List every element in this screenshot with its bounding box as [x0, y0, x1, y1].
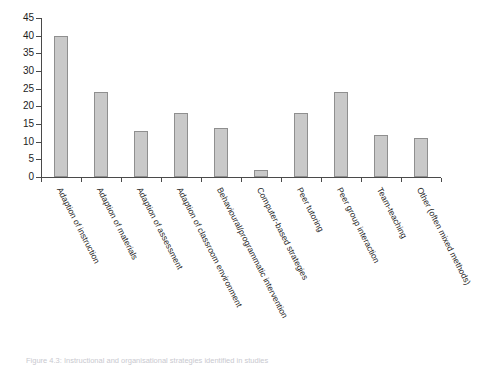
x-tick	[441, 178, 442, 182]
y-tick-label: 30	[0, 66, 34, 76]
y-tick-label: 20	[0, 101, 34, 111]
y-tick-label-wrap: 20	[0, 101, 34, 111]
y-tick	[36, 124, 41, 125]
y-tick	[36, 89, 41, 90]
x-axis-label: Other (often mixed methods)	[415, 186, 472, 286]
y-axis-line	[41, 18, 42, 178]
x-tick	[161, 178, 162, 182]
y-tick-label: 10	[0, 137, 34, 147]
y-tick-label-wrap: 15	[0, 119, 34, 129]
bar	[94, 92, 108, 177]
bar	[214, 128, 228, 177]
x-axis-label: Peer tutoring	[295, 186, 325, 233]
x-tick	[241, 178, 242, 182]
y-tick-label: 25	[0, 84, 34, 94]
y-tick-label: 15	[0, 119, 34, 129]
y-tick-label-wrap: 45	[0, 13, 34, 23]
y-tick-label-wrap: 10	[0, 137, 34, 147]
x-tick	[121, 178, 122, 182]
x-tick	[361, 178, 362, 182]
x-tick	[401, 178, 402, 182]
y-tick-label: 40	[0, 31, 34, 41]
x-axis-label: Adaption of assessment	[135, 186, 184, 271]
bar	[414, 138, 428, 177]
y-tick-label-wrap: 30	[0, 66, 34, 76]
y-tick	[36, 142, 41, 143]
y-tick-label: 45	[0, 13, 34, 23]
y-tick-label-wrap: 25	[0, 84, 34, 94]
x-tick	[41, 178, 42, 182]
y-tick-label: 5	[0, 154, 34, 164]
y-tick	[36, 159, 41, 160]
y-tick-label-wrap: 5	[0, 154, 34, 164]
bar	[294, 113, 308, 177]
bar	[134, 131, 148, 177]
bar	[334, 92, 348, 177]
x-axis-label: Adaption of materials	[95, 186, 139, 261]
y-tick	[36, 53, 41, 54]
y-tick	[36, 18, 41, 19]
bar	[54, 36, 68, 177]
y-tick	[36, 36, 41, 37]
figure-bar-chart: 051015202530354045 Adaption of instructi…	[0, 0, 479, 371]
x-axis-label: Behavioural/programmatic intervention	[215, 186, 289, 320]
x-tick	[321, 178, 322, 182]
bar	[174, 113, 188, 177]
y-tick-label: 35	[0, 48, 34, 58]
y-tick	[36, 106, 41, 107]
bar	[254, 170, 268, 177]
y-tick	[36, 71, 41, 72]
bar	[374, 135, 388, 177]
x-axis-label: Peer group interaction	[335, 186, 381, 265]
y-tick-label-wrap: 0	[0, 172, 34, 182]
x-axis-label: Adaption of instruction	[55, 186, 101, 265]
plot-area: 051015202530354045 Adaption of instructi…	[0, 0, 479, 371]
y-tick-label-wrap: 35	[0, 48, 34, 58]
x-tick	[281, 178, 282, 182]
x-tick	[201, 178, 202, 182]
y-tick-label: 0	[0, 172, 34, 182]
x-tick	[81, 178, 82, 182]
figure-caption: Figure 4.3: Instructional and organisati…	[26, 356, 456, 365]
x-axis-label: Team-teaching	[375, 186, 408, 240]
y-tick-label-wrap: 40	[0, 31, 34, 41]
